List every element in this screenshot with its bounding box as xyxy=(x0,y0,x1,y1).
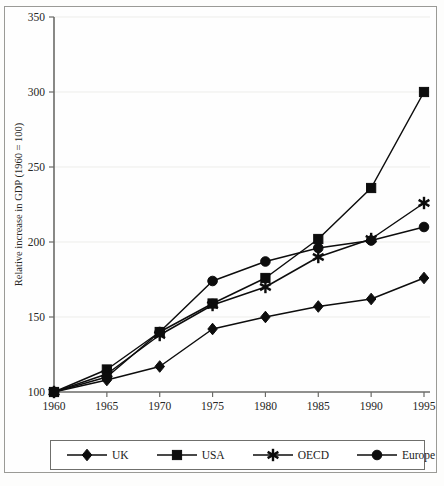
legend-marker-diamond-icon xyxy=(65,447,109,463)
y-tick-label: 350 xyxy=(28,11,46,23)
line-chart: 100150200250300350 196019651970197519801… xyxy=(0,0,444,486)
y-axis-title: Relative increase in GDP (1960 = 100) xyxy=(13,122,25,286)
legend-items: UKUSAOECDEurope xyxy=(51,441,424,469)
legend-marker-square-icon xyxy=(155,447,199,463)
legend-label: USA xyxy=(202,449,225,461)
data-point-marker xyxy=(314,234,323,243)
chart-svg: 100150200250300350 196019651970197519801… xyxy=(0,0,444,486)
data-point-marker xyxy=(367,183,376,192)
data-point-marker xyxy=(419,87,428,96)
x-tick-label: 1975 xyxy=(201,400,224,412)
data-point-marker xyxy=(208,323,218,335)
data-point-marker xyxy=(314,301,324,313)
x-axis-tick-labels: 19601965197019751980198519901995 xyxy=(43,400,436,412)
legend-entry-usa[interactable]: USA xyxy=(155,447,225,463)
x-tick-label: 1995 xyxy=(413,400,436,412)
x-tick-label: 1990 xyxy=(360,400,383,412)
data-point-marker xyxy=(366,293,376,305)
legend-label: OECD xyxy=(298,449,329,461)
y-tick-label: 100 xyxy=(28,386,46,398)
y-tick-label: 250 xyxy=(28,161,46,173)
x-tick-label: 1985 xyxy=(307,400,330,412)
legend-label: UK xyxy=(112,449,129,461)
x-tick-label: 1960 xyxy=(43,400,66,412)
data-point-marker xyxy=(82,449,92,461)
data-point-marker xyxy=(102,372,112,382)
data-point-marker xyxy=(419,222,429,232)
series-layer xyxy=(49,87,430,398)
chart-page: 100150200250300350 196019651970197519801… xyxy=(0,0,444,486)
x-tick-label: 1970 xyxy=(148,400,171,412)
x-tick-label: 1965 xyxy=(95,400,118,412)
y-tick-label: 300 xyxy=(28,86,46,98)
legend-marker-circle-icon xyxy=(355,447,399,463)
data-point-marker xyxy=(261,311,271,323)
x-tick-label: 1980 xyxy=(254,400,277,412)
data-point-marker xyxy=(419,272,429,284)
data-point-marker xyxy=(172,450,181,459)
data-point-marker xyxy=(261,257,271,267)
legend-entry-oecd[interactable]: OECD xyxy=(251,447,329,463)
y-axis-tick-labels: 100150200250300350 xyxy=(28,11,46,398)
gridlines xyxy=(54,17,430,317)
data-point-marker xyxy=(208,276,218,286)
legend: UKUSAOECDEurope xyxy=(50,440,425,470)
data-point-marker xyxy=(313,243,323,253)
legend-entry-uk[interactable]: UK xyxy=(65,447,129,463)
data-point-marker xyxy=(49,387,59,397)
data-point-marker xyxy=(155,361,165,373)
y-tick-label: 200 xyxy=(28,236,46,248)
data-point-marker xyxy=(366,236,376,246)
data-point-marker xyxy=(155,327,165,337)
legend-marker-star-icon xyxy=(251,447,295,463)
data-point-marker xyxy=(372,450,382,460)
y-tick-label: 150 xyxy=(28,311,46,323)
legend-label: Europe xyxy=(402,449,435,461)
legend-entry-europe[interactable]: Europe xyxy=(355,447,435,463)
